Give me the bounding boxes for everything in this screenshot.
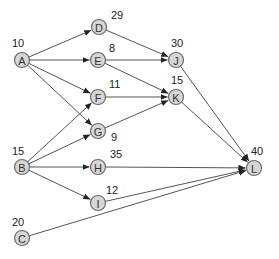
node-b: B15 <box>12 145 30 175</box>
edge-b-to-g <box>29 135 91 164</box>
edge-b-to-f <box>28 103 92 162</box>
edge-g-to-k <box>105 100 168 128</box>
activity-network-diagram: A10B15C20D29E8F11G9H35I12J30K15L40 <box>0 0 279 259</box>
node-label: C <box>18 233 26 245</box>
node-value-label: 10 <box>12 37 24 49</box>
node-l: L40 <box>247 145 264 176</box>
node-value-label: 15 <box>12 145 24 157</box>
node-label: J <box>173 55 179 67</box>
edge-a-to-f <box>29 63 91 93</box>
node-label: E <box>94 55 101 67</box>
node-value-label: 12 <box>106 184 118 196</box>
node-label: D <box>95 22 103 34</box>
node-value-label: 35 <box>110 148 122 160</box>
node-a: A10 <box>12 37 30 68</box>
node-label: L <box>251 163 257 175</box>
node-value-label: 40 <box>251 145 263 157</box>
edge-b-to-i <box>29 170 91 199</box>
node-value-label: 15 <box>171 74 183 86</box>
node-label: G <box>94 126 103 138</box>
node-label: K <box>172 92 180 104</box>
edge-c-to-l <box>29 171 246 236</box>
node-value-label: 8 <box>109 42 115 54</box>
edge-h-to-l <box>106 167 246 168</box>
edge-a-to-g <box>28 65 92 125</box>
node-label: B <box>18 162 25 174</box>
nodes-group: A10B15C20D29E8F11G9H35I12J30K15L40 <box>12 9 263 246</box>
node-label: I <box>96 198 99 210</box>
node-label: H <box>94 162 102 174</box>
node-c: C20 <box>12 216 30 246</box>
node-value-label: 30 <box>171 37 183 49</box>
node-value-label: 20 <box>12 216 24 228</box>
node-i: I12 <box>91 184 119 211</box>
node-value-label: 29 <box>111 9 123 21</box>
node-value-label: 11 <box>109 78 120 90</box>
node-g: G9 <box>91 124 118 144</box>
node-label: A <box>18 55 26 67</box>
node-f: F11 <box>91 78 121 105</box>
node-k: K15 <box>169 74 184 105</box>
edge-a-to-d <box>29 30 91 57</box>
node-h: H35 <box>91 148 123 175</box>
edge-j-to-l <box>180 66 249 161</box>
edges-group <box>28 30 250 236</box>
edge-d-to-j <box>106 30 168 57</box>
node-e: E8 <box>91 42 116 68</box>
edge-i-to-l <box>105 170 245 202</box>
edge-k-to-l <box>182 102 248 162</box>
node-label: F <box>95 92 102 104</box>
node-j: J30 <box>169 37 184 68</box>
node-value-label: 9 <box>111 131 117 143</box>
